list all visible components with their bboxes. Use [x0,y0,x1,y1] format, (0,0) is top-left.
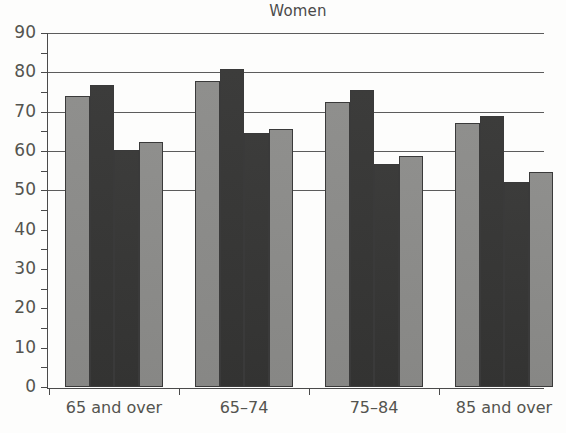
y-axis-label-50: 50 [0,181,36,198]
y-tick-0 [41,387,48,388]
y-axis-label-60: 60 [0,142,36,159]
x-axis-line [47,388,544,389]
y-tick-80 [41,72,48,73]
bar-3-4[interactable] [399,156,424,387]
y-axis-line [47,33,48,389]
x-category-label-3: 75–84 [314,399,434,417]
bar-3-2[interactable] [350,90,375,387]
y-axis-label-70: 70 [0,103,36,120]
y-tick-70 [41,112,48,113]
bar-4-4[interactable] [529,172,554,387]
y-axis-label-0: 0 [0,378,36,395]
x-tick-2 [179,388,180,395]
y-axis-label-30: 30 [0,260,36,277]
y-tick-minor-85 [41,53,48,54]
bar-4-1[interactable] [455,123,480,387]
plot-area [47,33,544,387]
x-category-label-4: 85 and over [444,399,564,417]
gridline-80 [47,72,544,73]
y-tick-minor-65 [41,131,48,132]
y-tick-20 [41,308,48,309]
y-tick-60 [41,151,48,152]
y-tick-40 [41,230,48,231]
bar-1-3[interactable] [114,150,139,387]
bar-2-3[interactable] [244,133,269,387]
y-tick-minor-55 [41,171,48,172]
bar-1-4[interactable] [139,142,164,387]
y-tick-minor-45 [41,210,48,211]
x-category-label-2: 65–74 [184,399,304,417]
gridline-70 [47,112,544,113]
y-tick-minor-25 [41,289,48,290]
bar-2-4[interactable] [269,129,294,387]
y-tick-minor-35 [41,249,48,250]
y-axis-label-20: 20 [0,299,36,316]
y-axis-label-10: 10 [0,339,36,356]
y-tick-minor-5 [41,367,48,368]
y-axis-label-40: 40 [0,221,36,238]
x-tick-4 [439,388,440,395]
bar-3-3[interactable] [374,164,399,387]
x-tick-3 [309,388,310,395]
y-tick-minor-75 [41,92,48,93]
chart-title: Women [0,2,566,20]
y-tick-30 [41,269,48,270]
y-axis-label-80: 80 [0,63,36,80]
y-tick-50 [41,190,48,191]
bar-3-1[interactable] [325,102,350,387]
x-category-label-1: 65 and over [54,399,174,417]
x-tick-1 [49,388,50,395]
bar-4-2[interactable] [480,116,505,387]
y-axis-label-90: 90 [0,24,36,41]
bar-1-2[interactable] [90,85,115,387]
bar-2-2[interactable] [220,69,245,387]
bar-2-1[interactable] [195,81,220,387]
y-tick-minor-15 [41,328,48,329]
y-tick-90 [41,33,48,34]
gridline-90 [47,33,544,34]
y-tick-10 [41,348,48,349]
bar-1-1[interactable] [65,96,90,387]
bar-chart-women: Women 010203040506070809065 and over65–7… [0,0,566,433]
bar-4-3[interactable] [504,182,529,387]
